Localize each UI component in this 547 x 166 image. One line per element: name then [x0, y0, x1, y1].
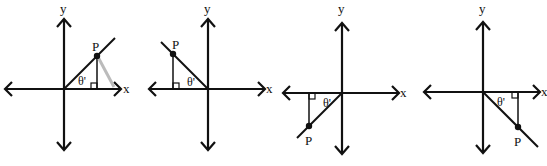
panel-quadrant-1: P θ' x y	[5, 1, 130, 150]
terminal-ray	[483, 92, 538, 147]
angle-label: θ'	[323, 96, 331, 110]
point-p	[515, 124, 521, 130]
terminal-ray	[64, 38, 115, 89]
terminal-ray	[297, 93, 342, 138]
point-label: P	[172, 37, 179, 52]
angle-label: θ'	[187, 75, 195, 89]
panel-quadrant-4: P θ' x y	[424, 1, 547, 153]
x-axis-label: x	[541, 84, 547, 99]
axes	[149, 19, 265, 150]
terminal-ray	[161, 42, 208, 89]
y-axis-label: y	[479, 1, 486, 16]
x-axis-label: x	[123, 81, 130, 96]
y-axis-label: y	[338, 1, 345, 16]
panel-quadrant-2: P θ' x y	[149, 1, 273, 150]
shadow-line	[98, 57, 114, 87]
y-axis-label: y	[60, 1, 67, 16]
point-label: P	[514, 134, 521, 149]
angle-label: θ'	[78, 74, 86, 88]
point-label: P	[92, 39, 99, 54]
angle-label: θ'	[497, 95, 505, 109]
point-p	[306, 123, 312, 129]
axes	[5, 19, 121, 150]
y-axis-label: y	[204, 1, 211, 16]
axes	[424, 22, 540, 153]
x-axis-label: x	[400, 85, 407, 100]
point-label: P	[305, 133, 312, 148]
panel-quadrant-3: P θ' x y	[283, 1, 407, 154]
x-axis-label: x	[266, 81, 273, 96]
